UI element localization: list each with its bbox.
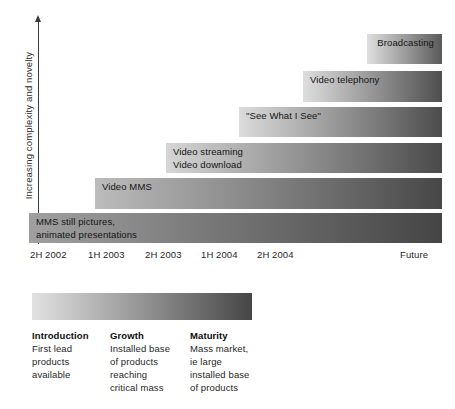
x-axis-tick-label: 1H 2003 [88, 249, 125, 260]
chart-legend: IntroductionFirst lead products availabl… [0, 272, 455, 409]
legend-gradient-bar [32, 293, 252, 320]
chart-bar: Video telephony [303, 71, 442, 102]
chart-bar-label: Video telephony [310, 74, 379, 87]
legend-column-title: Introduction [32, 329, 108, 342]
legend-column-body: Mass market, ie large installed base of … [190, 342, 266, 394]
legend-column-body: First lead products available [32, 342, 108, 381]
chart-bar: Video streaming Video download [166, 143, 442, 173]
legend-column: GrowthInstalled base of products reachin… [110, 329, 186, 394]
legend-column-title: Maturity [190, 329, 266, 342]
legend-column-title: Growth [110, 329, 186, 342]
y-axis-label: Increasing complexity and novelty [23, 6, 34, 246]
chart-bar-label: Broadcasting [377, 37, 434, 50]
chart-bar: Video MMS [95, 178, 442, 209]
chart-bar: MMS still pictures, animated presentatio… [29, 213, 442, 243]
chart-bar: "See What I See" [239, 107, 442, 137]
chart-bar-label: Video MMS [102, 181, 152, 194]
chart-area: Increasing complexity and novelty MMS st… [0, 0, 455, 272]
y-axis-line [38, 20, 39, 244]
x-axis-tick-labels: 2H 20021H 20032H 20031H 20042H 2004Futur… [0, 249, 455, 263]
legend-column-body: Installed base of products reaching crit… [110, 342, 186, 394]
chart-bar-label: "See What I See" [246, 110, 321, 123]
chart-bar-label: Video streaming Video download [173, 146, 243, 171]
x-axis-tick-label: 2H 2002 [30, 249, 67, 260]
x-axis-tick-label: Future [400, 249, 428, 260]
chart-bar-label: MMS still pictures, animated presentatio… [36, 216, 137, 241]
x-axis-tick-label: 1H 2004 [201, 249, 238, 260]
legend-column: IntroductionFirst lead products availabl… [32, 329, 108, 381]
x-axis-tick-label: 2H 2004 [257, 249, 294, 260]
x-axis-tick-label: 2H 2003 [145, 249, 182, 260]
legend-column: MaturityMass market, ie large installed … [190, 329, 266, 394]
chart-bar: Broadcasting [367, 34, 442, 64]
